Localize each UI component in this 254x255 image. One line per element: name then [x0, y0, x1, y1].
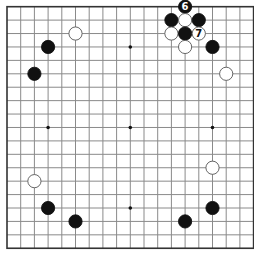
white-stone[interactable] — [179, 40, 192, 53]
black-stone[interactable] — [192, 14, 205, 27]
star-point — [211, 126, 215, 130]
move-number-label: 6 — [182, 1, 189, 12]
black-stone[interactable] — [206, 40, 219, 53]
black-stone[interactable] — [165, 14, 178, 27]
white-stone[interactable]: 7 — [192, 27, 205, 40]
white-stone[interactable] — [206, 161, 219, 174]
star-point — [129, 45, 133, 49]
black-stone[interactable] — [28, 67, 41, 80]
black-stone[interactable] — [69, 215, 82, 228]
star-point — [129, 126, 133, 130]
white-stone[interactable] — [220, 67, 233, 80]
white-stone[interactable] — [165, 27, 178, 40]
black-stone[interactable] — [42, 40, 55, 53]
star-point — [129, 206, 133, 210]
go-board-grid[interactable]: 67 — [0, 0, 254, 255]
black-stone[interactable]: 6 — [179, 0, 192, 13]
go-board[interactable]: 67 — [0, 0, 254, 255]
black-stone[interactable] — [42, 201, 55, 214]
black-stone[interactable] — [206, 201, 219, 214]
black-stone[interactable] — [179, 27, 192, 40]
white-stone[interactable] — [179, 14, 192, 27]
black-stone[interactable] — [179, 215, 192, 228]
white-stone[interactable] — [69, 27, 82, 40]
white-stone[interactable] — [28, 175, 41, 188]
star-point — [46, 126, 50, 130]
move-number-label: 7 — [195, 28, 202, 39]
